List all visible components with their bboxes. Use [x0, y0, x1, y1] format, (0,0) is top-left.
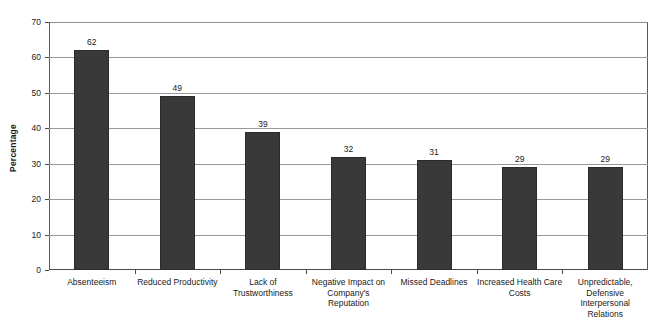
x-category-label-line: Interpersonal: [558, 298, 652, 309]
y-tick-mark: [45, 57, 49, 58]
x-category-label-line: Absenteeism: [45, 277, 139, 288]
y-tick-label: 60: [0, 53, 41, 62]
gridline: [49, 57, 648, 58]
bar-value-label: 62: [72, 38, 112, 47]
y-tick-mark: [45, 93, 49, 94]
x-category-label-line: Reputation: [302, 298, 396, 309]
y-tick-mark: [45, 22, 49, 23]
x-category-label-line: Increased Health Care: [473, 277, 567, 288]
bar-value-label: 29: [585, 155, 625, 164]
y-tick-label: 40: [0, 124, 41, 133]
y-tick-label: 50: [0, 89, 41, 98]
x-category-label: Reduced Productivity: [131, 277, 225, 288]
x-category-label: Lack ofTrustworthiness: [216, 277, 310, 298]
bar-value-label: 39: [243, 120, 283, 129]
x-tick-mark: [477, 270, 478, 274]
x-category-label: Increased Health CareCosts: [473, 277, 567, 298]
x-category-label-line: Defensive: [558, 288, 652, 299]
x-category-label-line: Lack of: [216, 277, 310, 288]
bar-value-label: 32: [329, 145, 369, 154]
x-tick-mark: [306, 270, 307, 274]
y-tick-label: 10: [0, 231, 41, 240]
bar: [417, 160, 452, 270]
x-category-label-line: Negative Impact on: [302, 277, 396, 288]
gridline: [49, 93, 648, 94]
x-tick-mark: [135, 270, 136, 274]
gridline: [49, 128, 648, 129]
x-category-label-line: Costs: [473, 288, 567, 299]
x-category-label: Unpredictable,DefensiveInterpersonalRela…: [558, 277, 652, 319]
x-category-label: Negative Impact onCompany'sReputation: [302, 277, 396, 309]
y-tick-label: 30: [0, 160, 41, 169]
x-tick-mark: [220, 270, 221, 274]
y-tick-mark: [45, 270, 49, 271]
x-category-label-line: Missed Deadlines: [387, 277, 481, 288]
y-tick-label: 20: [0, 195, 41, 204]
y-tick-mark: [45, 128, 49, 129]
x-category-label: Absenteeism: [45, 277, 139, 288]
y-tick-label: 0: [0, 266, 41, 275]
bar: [502, 167, 537, 270]
bar-chart: Percentage 62493932312929 01020304050607…: [0, 0, 665, 334]
x-category-label-line: Unpredictable,: [558, 277, 652, 288]
x-category-label-line: Trustworthiness: [216, 288, 310, 299]
bar-value-label: 49: [157, 84, 197, 93]
x-tick-mark: [391, 270, 392, 274]
y-tick-mark: [45, 164, 49, 165]
bar-value-label: 29: [500, 155, 540, 164]
bar: [74, 50, 109, 270]
bar: [331, 157, 366, 270]
bar-value-label: 31: [414, 148, 454, 157]
y-tick-mark: [45, 199, 49, 200]
x-category-label-line: Relations: [558, 309, 652, 320]
bar: [160, 96, 195, 270]
bar: [245, 132, 280, 270]
x-tick-mark: [562, 270, 563, 274]
y-tick-mark: [45, 235, 49, 236]
x-category-label-line: Reduced Productivity: [131, 277, 225, 288]
y-axis-title: Percentage: [0, 100, 26, 195]
x-category-label: Missed Deadlines: [387, 277, 481, 288]
plot-area: 62493932312929: [49, 22, 648, 270]
x-category-label-line: Company's: [302, 288, 396, 299]
y-tick-label: 70: [0, 18, 41, 27]
bar: [588, 167, 623, 270]
